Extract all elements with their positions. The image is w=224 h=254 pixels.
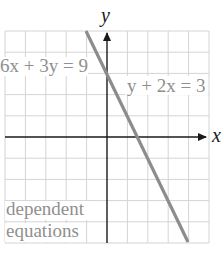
note-line-1: dependent <box>6 198 85 219</box>
note-line-2: equations <box>6 220 79 241</box>
coordinate-graph: y x 6x + 3y = 9 y + 2x = 3 dependent equ… <box>0 0 224 254</box>
equation-label-right: y + 2x = 3 <box>127 75 205 96</box>
equation-label-left: 6x + 3y = 9 <box>0 55 88 76</box>
x-axis-label: x <box>211 124 221 146</box>
y-axis-label: y <box>99 4 110 27</box>
